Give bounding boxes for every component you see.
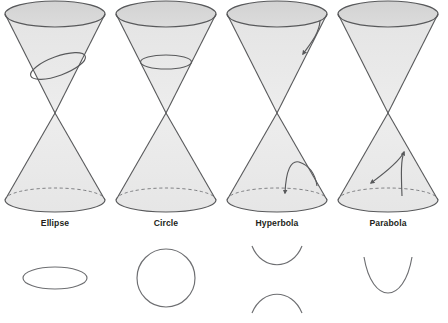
curve-circle bbox=[137, 249, 195, 307]
top-disk-ellipse bbox=[5, 1, 105, 27]
lower-nappe-parabola bbox=[338, 113, 438, 212]
curve-parabola bbox=[364, 257, 412, 293]
cone-group-ellipse bbox=[5, 1, 105, 212]
upper-nappe-circle bbox=[116, 14, 216, 113]
cone-group-circle bbox=[116, 1, 216, 212]
curve-ellipse bbox=[23, 267, 87, 289]
top-disk-hyperbola bbox=[227, 1, 327, 27]
upper-nappe-ellipse bbox=[5, 14, 105, 113]
upper-nappe-parabola bbox=[338, 14, 438, 113]
label-parabola: Parabola bbox=[369, 218, 406, 228]
top-disk-parabola bbox=[338, 1, 438, 27]
label-circle: Circle bbox=[154, 218, 179, 228]
label-hyperbola: Hyperbola bbox=[256, 218, 299, 228]
cone-group-hyperbola bbox=[227, 1, 327, 212]
conic-sections-figure: Ellipse Circle Hyperbola Parabola bbox=[0, 0, 448, 323]
curve-hyperbola-lower-branch bbox=[252, 294, 302, 313]
cone-group-parabola bbox=[338, 1, 438, 212]
lower-nappe-circle bbox=[116, 113, 216, 212]
top-disk-circle bbox=[116, 1, 216, 27]
upper-nappe-hyperbola bbox=[227, 14, 327, 113]
curve-hyperbola-upper-branch bbox=[252, 246, 302, 265]
lower-nappe-ellipse bbox=[5, 113, 105, 212]
label-ellipse: Ellipse bbox=[41, 218, 70, 228]
lower-nappe-hyperbola bbox=[227, 113, 327, 212]
conic-sections-diagram: Ellipse Circle Hyperbola Parabola bbox=[0, 0, 448, 323]
